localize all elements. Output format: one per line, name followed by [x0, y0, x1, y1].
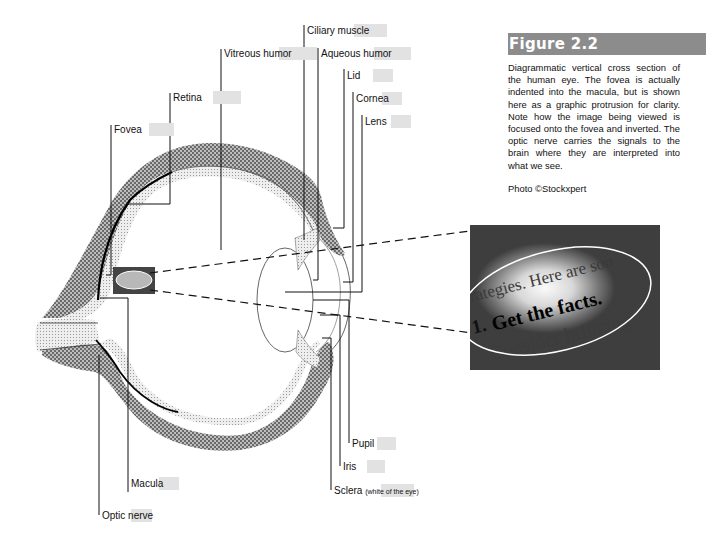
figure-title: Figure 2.2 — [508, 33, 706, 55]
label-cornea: Cornea — [353, 92, 402, 105]
label-fovea: Fovea — [111, 123, 174, 136]
upper-sclera-layer — [42, 143, 345, 320]
label-sclera-note: (white of the eye) — [365, 488, 419, 495]
label-vitreous-humor: Vitreous humor — [221, 47, 317, 60]
label-pupil: Pupil — [349, 437, 396, 450]
label-retina: Retina — [170, 91, 241, 104]
label-sclera: Sclera (white of the eye) — [331, 484, 414, 497]
label-lens: Lens — [362, 115, 411, 128]
photo-credit: Photo ©Stockxpert — [508, 183, 586, 194]
figure-caption: Diagrammatic vertical cross section of t… — [508, 62, 680, 172]
label-optic-nerve: Optic nerve — [99, 509, 152, 522]
label-ciliary-muscle: Ciliary muscle — [304, 24, 387, 37]
lens-shape — [257, 248, 313, 352]
lower-sclera-layer — [42, 338, 332, 451]
label-aqueous-humor: Aqueous humor — [318, 47, 411, 60]
label-lid: Lid — [344, 69, 393, 82]
magnified-text-photo: rategies. Here are son 1. Get the facts.… — [470, 225, 660, 370]
label-iris: Iris — [340, 460, 385, 473]
focus-ellipse — [470, 225, 660, 370]
label-macula: Macula — [128, 477, 179, 490]
